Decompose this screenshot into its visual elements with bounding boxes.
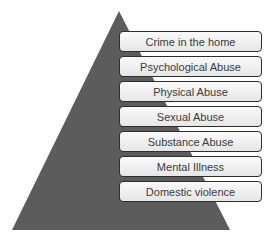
level-label: Sexual Abuse: [157, 111, 224, 123]
pyramid-level-2: Psychological Abuse: [119, 56, 262, 77]
level-label: Physical Abuse: [153, 86, 228, 98]
pyramid-level-6: Mental Illness: [119, 156, 262, 177]
level-label: Substance Abuse: [148, 136, 234, 148]
level-label: Psychological Abuse: [140, 61, 241, 73]
pyramid-level-7: Domestic violence: [119, 181, 262, 202]
pyramid-level-5: Substance Abuse: [119, 131, 262, 152]
pyramid-level-3: Physical Abuse: [119, 81, 262, 102]
level-label: Domestic violence: [146, 186, 235, 198]
pyramid-level-4: Sexual Abuse: [119, 106, 262, 127]
pyramid-level-1: Crime in the home: [119, 31, 262, 52]
level-label: Mental Illness: [157, 161, 224, 173]
level-label: Crime in the home: [146, 36, 236, 48]
